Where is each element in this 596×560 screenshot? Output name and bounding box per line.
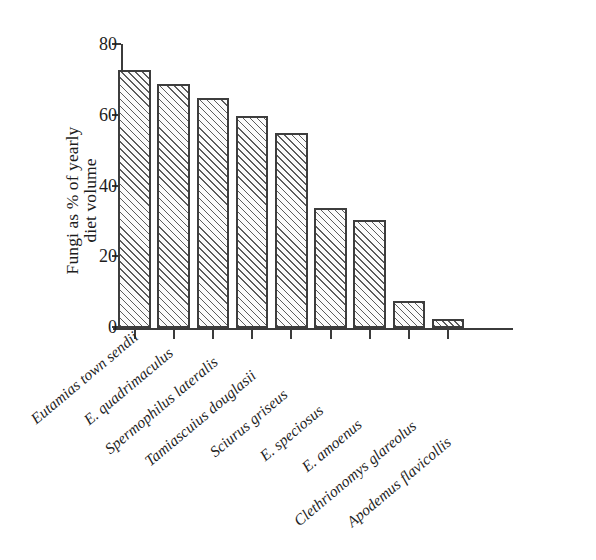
bar [432, 319, 465, 328]
bar [314, 208, 347, 328]
bar [236, 116, 269, 328]
bar [157, 84, 190, 328]
bar [393, 301, 426, 328]
bar [197, 98, 230, 328]
plot-area: 020406080 [121, 45, 475, 328]
y-tick-label: 60 [99, 106, 117, 124]
x-axis-tick-labels: Eutamias town sendiiE. quadrimaculusSper… [0, 338, 596, 553]
bar-chart-figure: Fungi as % of yearly diet volume 0204060… [0, 0, 596, 560]
bar [118, 70, 151, 328]
y-tick-label: 80 [99, 35, 117, 53]
y-axis-label: Fungi as % of yearly diet volume [42, 60, 100, 335]
bar [275, 133, 308, 328]
y-axis-label-line-2: diet volume [80, 86, 101, 316]
y-tick-label: 0 [108, 318, 117, 336]
y-tick-label: 40 [99, 177, 117, 195]
bar [353, 220, 386, 328]
y-tick-label: 20 [99, 247, 117, 265]
